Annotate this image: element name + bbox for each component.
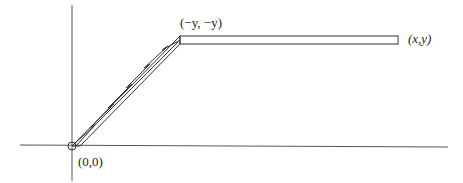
- lattice-path-diagram: [0, 0, 463, 183]
- corner-label: (−y, −y): [180, 16, 222, 29]
- endpoint-label: (x,y): [408, 32, 431, 45]
- x-axis: [20, 145, 448, 147]
- origin-label: (0,0): [78, 155, 103, 168]
- horizontal-strip: [180, 36, 398, 44]
- diagonal-strip: [72, 36, 180, 146]
